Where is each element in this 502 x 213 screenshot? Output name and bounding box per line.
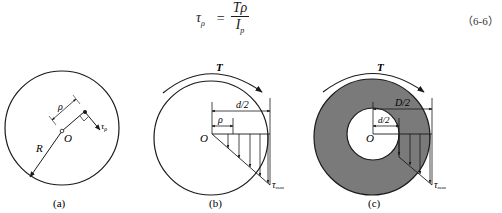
shear-stress-arrow	[85, 112, 100, 130]
caption-a: (a)	[53, 197, 66, 210]
rho-label: ρ	[217, 114, 223, 125]
torque-label: T	[377, 61, 385, 73]
solid-shaft-section	[154, 81, 268, 195]
figure-b: T d/2 ρ O τmax (b)	[154, 61, 285, 210]
center-label: O	[366, 132, 374, 144]
radius-label: R	[35, 142, 43, 154]
inner-half-diameter-label: d/2	[378, 115, 390, 125]
figure-a: O R ρ τρ (a)	[5, 71, 119, 210]
stress-distribution-line	[212, 134, 270, 185]
rho-dimension-line	[52, 99, 76, 120]
rho-line	[62, 112, 84, 131]
right-angle-mark	[80, 116, 88, 121]
outer-half-diameter-label: D/2	[394, 97, 410, 108]
rho-label: ρ	[57, 101, 63, 112]
radius-arrow	[30, 131, 62, 177]
center-label: O	[200, 132, 208, 144]
max-stress-label: τmax	[434, 179, 447, 190]
figure-c: T D/2 d/2 O τmax (c)	[314, 61, 447, 210]
torsion-diagrams: O R ρ τρ (a) T d/2 ρ O τmax (b)	[0, 0, 502, 213]
max-stress-label: τmax	[272, 179, 285, 190]
caption-b: (b)	[209, 197, 222, 210]
half-diameter-label: d/2	[236, 99, 249, 110]
caption-c: (c)	[368, 197, 381, 210]
shear-stress-label: τρ	[101, 121, 107, 132]
center-label: O	[64, 132, 72, 144]
torque-label: T	[216, 61, 224, 73]
torque-arrow	[163, 74, 262, 93]
